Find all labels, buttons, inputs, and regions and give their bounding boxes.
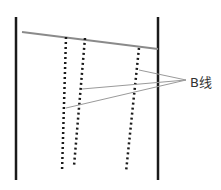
pleural-line [22,32,158,49]
pointer-line-3 [66,80,186,108]
b-line-diagram [0,0,221,190]
b-line-2 [74,38,85,166]
b-line-1 [62,37,66,172]
pointer-line-1 [139,70,186,80]
b-line-label: B线 [190,72,212,91]
b-line-3 [126,48,139,172]
pointer-line-2 [82,80,186,89]
